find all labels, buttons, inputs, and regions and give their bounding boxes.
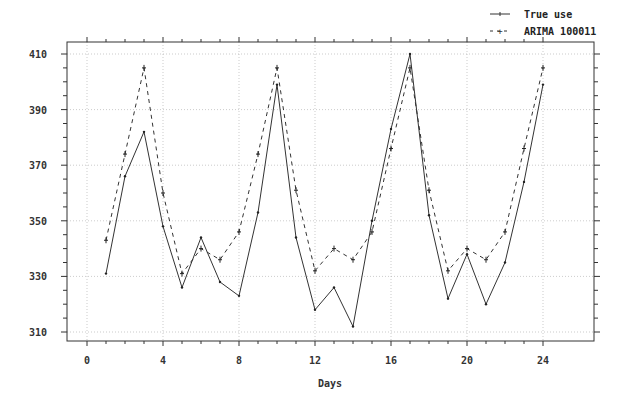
dot-marker-icon [485, 303, 487, 305]
dot-marker-icon [181, 286, 183, 288]
x-tick-label: 4 [160, 355, 166, 366]
dot-marker-icon [333, 286, 335, 288]
x-tick-label: 24 [537, 355, 549, 366]
dot-marker-icon [200, 236, 202, 238]
series-true-use [105, 53, 544, 328]
dot-marker-icon [276, 83, 278, 85]
dot-marker-icon [523, 181, 525, 183]
series-line [106, 68, 543, 274]
dot-marker-icon [238, 295, 240, 297]
dot-marker-icon [390, 128, 392, 130]
dot-marker-icon [105, 272, 107, 274]
x-tick-label: 16 [385, 355, 397, 366]
dot-marker-icon [409, 53, 411, 55]
dot-marker-icon [428, 214, 430, 216]
plus-marker-icon: + [497, 26, 503, 36]
series-arima [104, 65, 545, 277]
y-tick-label: 310 [29, 327, 47, 338]
series-line [106, 54, 543, 326]
dot-marker-icon [257, 211, 259, 213]
x-tick-label: 20 [461, 355, 473, 366]
dot-marker-icon [314, 309, 316, 311]
dot-marker-icon [504, 261, 506, 263]
x-axis-title: Days [318, 378, 342, 389]
legend-label: ARIMA 100011 [524, 26, 596, 37]
dot-marker-icon [371, 220, 373, 222]
legend: True use + ARIMA 100011 [490, 9, 596, 37]
y-tick-label: 370 [29, 160, 47, 171]
dot-marker-icon [466, 253, 468, 255]
dot-marker-icon [219, 281, 221, 283]
dot-marker-icon [143, 131, 145, 133]
dot-marker-icon [295, 236, 297, 238]
plot-frame [67, 42, 594, 341]
y-tick-label: 410 [29, 49, 47, 60]
dot-marker-icon [542, 83, 544, 85]
x-tick-label: 0 [84, 355, 90, 366]
x-axis-labels: 04812162024 [84, 355, 549, 366]
dot-marker-icon [162, 225, 164, 227]
x-tick-label: 8 [236, 355, 242, 366]
y-tick-label: 390 [29, 105, 47, 116]
data-series [104, 53, 545, 328]
line-chart: 310330350370390410 04812162024 Days True… [0, 0, 632, 407]
legend-item-arima: + ARIMA 100011 [490, 26, 596, 37]
y-tick-label: 330 [29, 271, 47, 282]
legend-item-true-use: True use [490, 9, 572, 20]
dot-marker-icon [447, 297, 449, 299]
y-tick-label: 350 [29, 216, 47, 227]
legend-label: True use [524, 9, 572, 20]
y-axis-labels: 310330350370390410 [29, 49, 47, 338]
axis-ticks [61, 37, 600, 346]
dot-marker-icon [124, 175, 126, 177]
dot-marker-icon [352, 325, 354, 327]
grid-lines [67, 42, 594, 341]
x-tick-label: 12 [309, 355, 321, 366]
